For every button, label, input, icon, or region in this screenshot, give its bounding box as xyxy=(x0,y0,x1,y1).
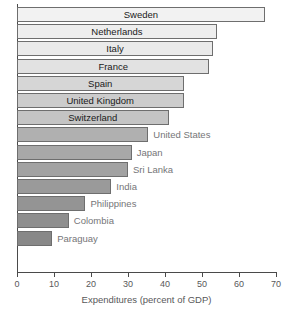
x-axis-tick xyxy=(128,272,129,277)
bar-row: Sri Lanka xyxy=(17,162,276,177)
bar-label-outside: Sri Lanka xyxy=(133,162,173,177)
bar-row: United Kingdom xyxy=(17,93,276,108)
bar-label-outside: Colombia xyxy=(74,213,114,228)
bar-label-outside: United States xyxy=(153,127,210,142)
bar-row: France xyxy=(17,59,276,74)
bar-row: Italy xyxy=(17,41,276,56)
bar xyxy=(17,127,148,142)
bar-label-inside: Spain xyxy=(17,76,184,91)
bar-label-inside: Netherlands xyxy=(17,24,217,39)
x-axis-tick-label: 70 xyxy=(271,279,281,290)
bar xyxy=(17,162,128,177)
bar-row: Sweden xyxy=(17,7,276,22)
bar xyxy=(17,213,69,228)
bar-label-outside: Japan xyxy=(137,145,163,160)
x-axis-line xyxy=(17,272,276,273)
plot-area: 010203040506070 SwedenNetherlandsItalyFr… xyxy=(0,0,287,312)
bar-row: Colombia xyxy=(17,213,276,228)
bar-row: United States xyxy=(17,127,276,142)
x-axis-tick xyxy=(202,272,203,277)
x-axis-tick-label: 20 xyxy=(86,279,96,290)
x-axis-tick xyxy=(91,272,92,277)
bar-row: Paraguay xyxy=(17,231,276,246)
bar-label-outside: Philippines xyxy=(90,196,136,211)
x-axis-tick xyxy=(54,272,55,277)
x-axis-tick-label: 60 xyxy=(234,279,244,290)
bar-row: Japan xyxy=(17,145,276,160)
bar-row: Netherlands xyxy=(17,24,276,39)
bar-label-inside: United Kingdom xyxy=(17,93,184,108)
bar-row: Spain xyxy=(17,76,276,91)
bar-label-outside: Paraguay xyxy=(57,231,98,246)
bar-chart: 010203040506070 SwedenNetherlandsItalyFr… xyxy=(0,0,287,312)
x-axis-title: Expenditures (percent of GDP) xyxy=(17,294,276,305)
bar-label-inside: Switzerland xyxy=(17,110,169,125)
x-axis-tick-label: 40 xyxy=(160,279,170,290)
x-axis-tick xyxy=(17,272,18,277)
bar-row: Philippines xyxy=(17,196,276,211)
bar-label-inside: France xyxy=(17,59,209,74)
x-axis-tick-label: 10 xyxy=(49,279,59,290)
bar-label-outside: India xyxy=(116,179,137,194)
x-axis-tick xyxy=(276,272,277,277)
x-axis-tick-label: 30 xyxy=(123,279,133,290)
bar xyxy=(17,196,85,211)
bar-label-inside: Italy xyxy=(17,41,213,56)
x-axis-tick xyxy=(239,272,240,277)
x-axis-tick xyxy=(165,272,166,277)
bar xyxy=(17,231,52,246)
bar-label-inside: Sweden xyxy=(17,7,265,22)
x-axis-tick-label: 0 xyxy=(14,279,19,290)
x-axis-tick-label: 50 xyxy=(197,279,207,290)
bar-row: India xyxy=(17,179,276,194)
bar-row: Switzerland xyxy=(17,110,276,125)
bar xyxy=(17,179,111,194)
bar xyxy=(17,145,132,160)
